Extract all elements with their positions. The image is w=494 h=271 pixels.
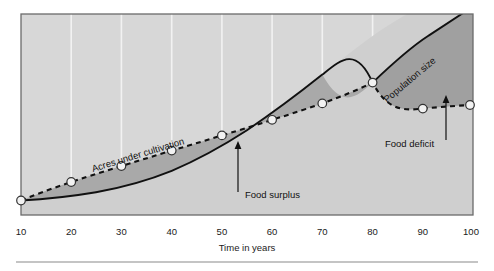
data-point-90 <box>419 104 428 113</box>
x-tick-20: 20 <box>66 226 77 237</box>
population-food-chart: Acres under cultivation Population size … <box>0 0 494 271</box>
x-tick-80: 80 <box>367 226 378 237</box>
x-tick-10: 10 <box>16 226 27 237</box>
x-tick-50: 50 <box>217 226 228 237</box>
data-point-60 <box>268 116 277 125</box>
figure-container: Acres under cultivation Population size … <box>0 0 494 271</box>
data-point-20 <box>67 178 76 187</box>
data-point-50 <box>218 131 227 140</box>
x-tick-60: 60 <box>267 226 278 237</box>
x-tick-40: 40 <box>166 226 177 237</box>
x-tick-30: 30 <box>116 226 127 237</box>
data-point-70 <box>318 99 327 108</box>
data-point-100 <box>466 101 475 110</box>
x-axis-title: Time in years <box>219 242 276 253</box>
x-axis-tick-labels: 10 20 30 40 50 60 70 80 90 100 <box>16 226 479 237</box>
x-tick-70: 70 <box>317 226 328 237</box>
data-point-10 <box>17 196 26 205</box>
food-surplus-label: Food surplus <box>245 189 300 200</box>
x-tick-90: 90 <box>418 226 429 237</box>
food-deficit-label: Food deficit <box>385 138 434 149</box>
data-point-80 <box>368 78 377 87</box>
x-tick-100: 100 <box>463 226 479 237</box>
